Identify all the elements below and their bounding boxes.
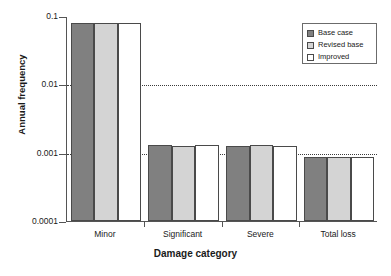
y-axis-tick-label: 0.1 bbox=[46, 12, 58, 21]
x-axis-tick-label: Severe bbox=[222, 229, 300, 239]
x-axis-tick bbox=[144, 222, 145, 227]
y-axis-tick bbox=[59, 17, 66, 18]
y-axis-tick bbox=[59, 154, 66, 155]
x-axis-title: Damage category bbox=[0, 248, 391, 259]
bar bbox=[172, 146, 196, 221]
legend-item-label: Improved bbox=[318, 53, 349, 61]
bar-chart: Annual frequency 0.10.010.0010.0001 Mino… bbox=[0, 0, 391, 276]
bar bbox=[351, 157, 375, 221]
y-axis-tick bbox=[59, 85, 66, 86]
legend-item-label: Base case bbox=[318, 29, 353, 37]
legend-swatch-icon bbox=[307, 54, 314, 61]
x-axis-tick bbox=[222, 222, 223, 227]
y-axis-tick-label: 0.001 bbox=[37, 149, 58, 158]
x-axis-tick-label: Significant bbox=[144, 229, 222, 239]
bar bbox=[250, 145, 274, 221]
bar bbox=[226, 146, 250, 221]
bar bbox=[195, 145, 219, 221]
legend-swatch-icon bbox=[307, 42, 314, 49]
legend: Base case Revised base Improved bbox=[302, 23, 377, 64]
bar bbox=[304, 157, 328, 221]
bar bbox=[71, 23, 95, 221]
legend-swatch-icon bbox=[307, 30, 314, 37]
legend-item-label: Revised base bbox=[318, 41, 363, 49]
legend-item[interactable]: Improved bbox=[307, 51, 376, 63]
legend-item[interactable]: Revised base bbox=[307, 39, 376, 51]
x-axis-tick-label: Total loss bbox=[299, 229, 377, 239]
y-axis-tick-label: 0.0001 bbox=[32, 217, 58, 226]
bar bbox=[148, 145, 172, 221]
y-axis-tick bbox=[59, 222, 66, 223]
x-axis-tick-label: Minor bbox=[66, 229, 144, 239]
bar bbox=[118, 23, 142, 221]
x-axis-tick bbox=[299, 222, 300, 227]
bar bbox=[273, 146, 297, 221]
bar bbox=[327, 157, 351, 221]
y-axis-tick-label: 0.01 bbox=[41, 80, 58, 89]
y-axis-title: Annual frequency bbox=[16, 35, 27, 155]
bar bbox=[94, 23, 118, 221]
legend-item[interactable]: Base case bbox=[307, 27, 376, 39]
